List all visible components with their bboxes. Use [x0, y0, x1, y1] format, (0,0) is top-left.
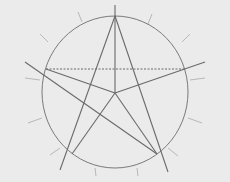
- left-to-bottom-right-line: [25, 62, 157, 154]
- tick-mark: [168, 148, 178, 156]
- tick-mark: [188, 118, 202, 123]
- tick-mark: [137, 168, 138, 176]
- tick-mark: [95, 168, 96, 176]
- top-to-bottom-right-line: [115, 16, 168, 172]
- tick-mark: [50, 148, 60, 155]
- tick-mark: [190, 78, 205, 80]
- center-to-left-line: [46, 69, 115, 93]
- center-to-bottom-left-line: [72, 93, 115, 154]
- tick-mark: [78, 12, 82, 22]
- top-to-bottom-left-line: [60, 16, 115, 170]
- tick-mark: [182, 34, 190, 42]
- tick-mark: [28, 118, 42, 123]
- tick-mark: [148, 14, 152, 24]
- diagram-svg: [0, 0, 230, 182]
- tick-mark: [40, 34, 48, 42]
- center-to-right-line: [115, 62, 205, 93]
- center-to-bottom-right-line: [115, 93, 157, 154]
- pentagram-diagram: [0, 0, 230, 182]
- tick-mark: [25, 78, 40, 80]
